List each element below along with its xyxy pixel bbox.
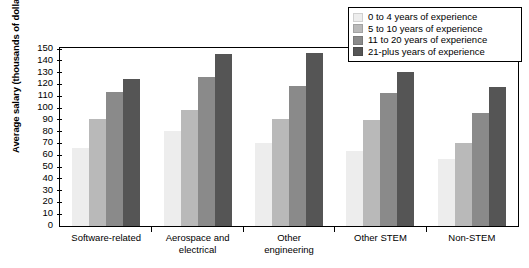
bar-group xyxy=(426,49,517,226)
x-axis-category-label: Other STEM xyxy=(335,232,426,255)
bar-cluster xyxy=(346,49,414,226)
legend-label: 0 to 4 years of experience xyxy=(368,12,477,22)
bar xyxy=(346,151,363,225)
x-axis-group-tick xyxy=(426,226,427,232)
legend-item: 21-plus years of experience xyxy=(353,46,515,57)
y-axis-tick-label: 130 xyxy=(37,66,53,77)
y-axis-tick-label: 60 xyxy=(42,148,53,159)
y-axis-tick: 140 xyxy=(0,60,62,61)
bar-group xyxy=(152,49,243,226)
bar xyxy=(306,53,323,225)
bar-chart: Average salary (thousands of dollars) 15… xyxy=(0,0,529,268)
bar xyxy=(106,92,123,225)
y-axis-tick: 130 xyxy=(0,72,62,73)
bar xyxy=(198,77,215,226)
y-axis-tick-label: 40 xyxy=(42,172,53,183)
x-axis-group-tick xyxy=(243,226,244,232)
y-axis-tick-label: 0 xyxy=(48,219,53,230)
legend-swatch-icon xyxy=(353,36,363,45)
bar-cluster xyxy=(72,49,140,226)
y-axis-tick: 30 xyxy=(0,190,62,191)
bar-cluster xyxy=(255,49,323,226)
bar-group xyxy=(243,49,334,226)
bar xyxy=(272,119,289,225)
x-axis-group-tick xyxy=(151,226,152,232)
x-axis-group-tick xyxy=(334,226,335,232)
bar xyxy=(181,110,198,226)
x-axis-category-label: Non-STEM xyxy=(426,232,517,255)
y-axis-tick: 20 xyxy=(0,202,62,203)
bar-groups xyxy=(61,49,518,226)
y-axis-tick: 0 xyxy=(0,226,62,227)
y-axis-tick-label: 30 xyxy=(42,184,53,195)
y-axis-tick: 100 xyxy=(0,108,62,109)
legend-item: 5 to 10 years of experience xyxy=(353,23,515,34)
bar xyxy=(489,87,506,225)
bar xyxy=(363,120,380,225)
y-axis-tick: 40 xyxy=(0,178,62,179)
legend-label: 5 to 10 years of experience xyxy=(368,24,483,34)
y-axis-tick-label: 80 xyxy=(42,125,53,136)
x-axis-category-label: Aerospace and electrical xyxy=(152,232,243,255)
legend-label: 11 to 20 years of experience xyxy=(368,35,487,45)
y-axis-tick-label: 140 xyxy=(37,54,53,65)
y-axis-tick: 50 xyxy=(0,167,62,168)
y-axis-tick: 150 xyxy=(0,49,62,50)
bar xyxy=(215,54,232,225)
legend-label: 21-plus years of experience xyxy=(368,47,485,57)
bar xyxy=(255,143,272,226)
y-axis-tick-label: 110 xyxy=(38,89,53,100)
y-axis-tick-label: 20 xyxy=(42,195,53,206)
bar xyxy=(397,72,414,225)
x-axis-category-label: Software-related xyxy=(61,232,152,255)
y-axis-title: Average salary (thousands of dollars) xyxy=(10,0,21,170)
y-axis-tick: 70 xyxy=(0,143,62,144)
bar xyxy=(289,86,306,225)
legend-item: 0 to 4 years of experience xyxy=(353,12,515,23)
bar-cluster xyxy=(438,49,506,226)
bar xyxy=(89,119,106,225)
y-axis-tick: 90 xyxy=(0,119,62,120)
y-axis-tick-label: 90 xyxy=(42,113,53,124)
bar xyxy=(123,79,140,225)
y-axis-tick-label: 120 xyxy=(37,77,53,88)
legend-item: 11 to 20 years of experience xyxy=(353,35,515,46)
bar xyxy=(455,143,472,226)
y-axis-tick-label: 10 xyxy=(42,207,53,218)
legend-swatch-icon xyxy=(353,24,363,33)
y-axis-tick: 120 xyxy=(0,84,62,85)
x-axis-category-label: Other engineering xyxy=(243,232,334,255)
y-axis-tick: 60 xyxy=(0,155,62,156)
bar xyxy=(164,131,181,225)
x-axis-category-labels: Software-relatedAerospace and electrical… xyxy=(61,232,518,255)
bar xyxy=(72,148,89,226)
bar-group xyxy=(335,49,426,226)
y-axis-tick: 110 xyxy=(0,96,62,97)
bar-cluster xyxy=(164,49,232,226)
legend-swatch-icon xyxy=(353,13,363,22)
y-axis-tick: 80 xyxy=(0,131,62,132)
y-axis-tick-label: 70 xyxy=(42,136,53,147)
legend: 0 to 4 years of experience5 to 10 years … xyxy=(348,7,522,62)
y-axis-tick-label: 150 xyxy=(37,42,53,53)
legend-swatch-icon xyxy=(353,47,363,56)
y-axis-tick-label: 50 xyxy=(42,160,53,171)
bar-group xyxy=(61,49,152,226)
bar xyxy=(472,113,489,225)
y-axis-tick: 10 xyxy=(0,214,62,215)
bar xyxy=(380,93,397,225)
y-axis-tick-label: 100 xyxy=(37,101,53,112)
bar xyxy=(438,159,455,225)
